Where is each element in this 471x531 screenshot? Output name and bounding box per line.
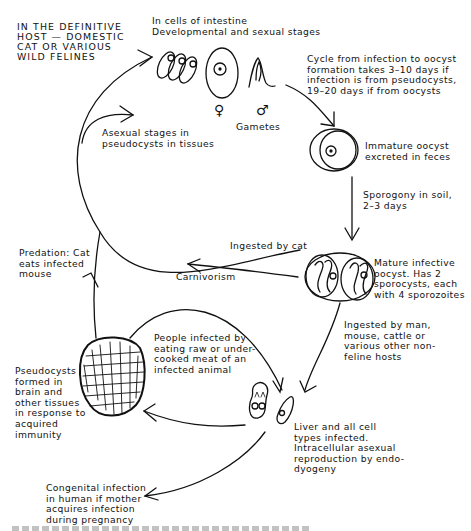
label-intestine: In cells of intestine Developmental and … — [152, 16, 321, 37]
male-symbol-icon: ♂ — [256, 103, 269, 117]
label-mature-oocyst: Mature infective oocyst. Has 2 sporocyst… — [374, 258, 465, 300]
host-label: IN THE DEFINITIVE HOST — DOMESTIC CAT OR… — [17, 22, 125, 62]
label-people-infected: People infected by eating raw or under- … — [154, 333, 256, 375]
intestinal-stage-cells — [154, 49, 201, 85]
label-ingested-by-hosts: Ingested by man, mouse, cattle or variou… — [344, 320, 436, 362]
label-carnivorism: Carnivorism — [176, 272, 236, 283]
label-sporogony: Sporogony in soil, 2–3 days — [363, 190, 452, 211]
label-immature-oocyst: Immature oocyst excreted in feces — [365, 141, 451, 162]
label-asexual-stages: Asexual stages in pseudocysts in tissues — [102, 128, 214, 149]
label-predation: Predation: Cat eats infected mouse — [19, 248, 90, 280]
arrow-congenital — [145, 432, 265, 496]
immature-oocyst — [310, 129, 358, 171]
mature-oocyst — [305, 253, 375, 301]
label-cycle-time: Cycle from infection to oocyst formation… — [307, 54, 457, 96]
arrow-ingested-hosts — [305, 303, 340, 390]
cut-off-caption — [12, 526, 312, 531]
microgamete — [249, 58, 275, 87]
label-ingested-by-cat: Ingested by cat — [230, 241, 307, 252]
arrow-carnivorism-arc — [100, 232, 300, 272]
label-congenital: Congenital infection in human if mother … — [46, 483, 146, 525]
liver-stage-cells — [250, 383, 294, 424]
label-pseudocysts: Pseudocysts formed in brain and other ti… — [15, 366, 86, 440]
arrow-to-pseudocyst — [144, 411, 245, 426]
female-symbol-icon: ♀ — [214, 103, 224, 117]
macrogamete — [206, 48, 238, 98]
arrow-main-arc — [77, 57, 152, 338]
pseudocyst-drawing — [80, 337, 145, 415]
label-gametes: Gametes — [236, 122, 280, 133]
label-liver: Liver and all cell types infected. Intra… — [294, 422, 405, 475]
